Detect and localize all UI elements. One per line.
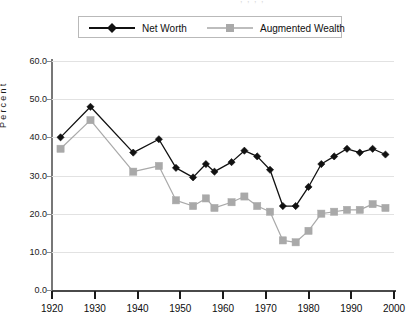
square-marker-icon	[279, 237, 286, 244]
diamond-marker-icon	[279, 202, 286, 209]
series-augmented-wealth	[57, 117, 389, 246]
square-marker-icon	[241, 193, 248, 200]
diamond-marker-icon	[331, 153, 338, 160]
square-marker-icon	[305, 227, 312, 234]
square-marker-icon	[130, 168, 137, 175]
square-marker-icon	[356, 206, 363, 213]
diamond-marker-icon	[343, 145, 350, 152]
diamond-marker-icon	[172, 164, 179, 171]
diamond-marker-icon	[305, 183, 312, 190]
square-marker-icon	[292, 239, 299, 246]
square-marker-icon	[172, 197, 179, 204]
square-marker-icon	[331, 208, 338, 215]
diamond-marker-icon	[382, 151, 389, 158]
square-marker-icon	[343, 206, 350, 213]
square-marker-icon	[155, 162, 162, 169]
series-net-worth	[57, 103, 389, 209]
diamond-marker-icon	[369, 145, 376, 152]
diamond-marker-icon	[356, 149, 363, 156]
square-marker-icon	[318, 210, 325, 217]
chart-container: , , , , Net Worth Augmented Wealth 0.010…	[0, 0, 417, 331]
square-marker-icon	[57, 145, 64, 152]
square-marker-icon	[369, 201, 376, 208]
series-layer	[0, 0, 417, 331]
square-marker-icon	[202, 195, 209, 202]
diamond-marker-icon	[155, 136, 162, 143]
square-marker-icon	[266, 208, 273, 215]
diamond-marker-icon	[292, 202, 299, 209]
square-marker-icon	[87, 117, 94, 124]
square-marker-icon	[228, 199, 235, 206]
diamond-marker-icon	[318, 160, 325, 167]
square-marker-icon	[382, 204, 389, 211]
square-marker-icon	[211, 204, 218, 211]
square-marker-icon	[189, 202, 196, 209]
square-marker-icon	[254, 202, 261, 209]
